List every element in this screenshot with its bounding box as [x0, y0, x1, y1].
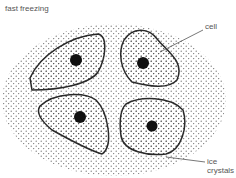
nucleus-icon: [147, 121, 158, 132]
tissue-outline: [2, 24, 226, 176]
nucleus-icon: [74, 111, 86, 123]
freezing-diagram: [0, 0, 236, 178]
nucleus-icon: [137, 57, 149, 69]
nucleus-icon: [70, 54, 82, 66]
